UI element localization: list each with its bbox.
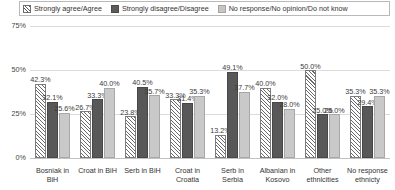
bar-slot: 28.0% [284, 26, 295, 158]
bar-slot: 40.0% [104, 26, 115, 158]
bar-value-label: 35.3% [189, 88, 209, 96]
category-label: No response ethnicty [345, 166, 390, 190]
bar[interactable]: 13.2% [215, 135, 226, 158]
bar-slot: 32.1% [47, 26, 58, 158]
bar[interactable]: 37.7% [239, 92, 250, 158]
bar-value-label: 25.0% [324, 107, 344, 115]
bar-slot: 32.0% [272, 26, 283, 158]
bar-group: 33.3%31.4%35.3% [165, 26, 210, 158]
bar-slot: 13.2% [215, 26, 226, 158]
bar-slot: 35.7% [149, 26, 160, 158]
legend-item-label: Strongly agree/Agree [34, 5, 102, 13]
category-label: Croat in Croatia [165, 166, 210, 190]
bar-group: 13.2%49.1%37.7% [210, 26, 255, 158]
bar-slot: 50.0% [305, 26, 316, 158]
y-axis-tick-label: 75% [12, 22, 26, 30]
bar-value-label: 35.3% [369, 88, 389, 96]
bar-slot: 25.6% [59, 26, 70, 158]
bar[interactable]: 35.7% [149, 95, 160, 158]
bar-value-label: 25.6% [54, 105, 74, 113]
legend-item-2[interactable]: No response/No opinion/Do not know [218, 5, 348, 13]
bar-value-label: 40.0% [99, 80, 119, 88]
bar-groups: 42.3%32.1%25.6%26.7%33.3%40.0%23.8%40.5%… [30, 26, 390, 158]
hatched-diagonal-swatch [23, 5, 31, 13]
gridline-0%: 0% [30, 158, 390, 159]
bar-slot: 25.0% [317, 26, 328, 158]
bar-slot: 35.3% [374, 26, 385, 158]
bar-group: 35.3%29.4%35.3% [345, 26, 390, 158]
category-label: Albanian in Kosovo [255, 166, 300, 190]
bar-slot: 25.0% [329, 26, 340, 158]
bar-group: 23.8%40.5%35.7% [120, 26, 165, 158]
y-axis-tick-label: 0% [16, 154, 26, 162]
bar[interactable]: 33.3% [170, 99, 181, 158]
grouped-bar-chart: Strongly agree/AgreeStrongly disagree/Di… [0, 0, 395, 190]
bar-value-label: 28.0% [279, 101, 299, 109]
bar-value-label: 35.7% [144, 88, 164, 96]
bar[interactable]: 25.0% [317, 114, 328, 158]
bar[interactable]: 35.3% [194, 96, 205, 158]
bar-group: 50.0%25.0%25.0% [300, 26, 345, 158]
category-label: Serb in BiH [120, 166, 165, 190]
category-axis-labels: Bosniak in BiHCroat in BiHSerb in BiHCro… [30, 166, 390, 190]
bar[interactable]: 40.5% [137, 87, 148, 158]
bar-slot: 40.0% [260, 26, 271, 158]
category-label: Bosniak in BiH [30, 166, 75, 190]
chart-legend: Strongly agree/AgreeStrongly disagree/Di… [19, 1, 390, 16]
bar-slot: 35.3% [350, 26, 361, 158]
category-label: Serb in Serbia [210, 166, 255, 190]
legend-item-label: No response/No opinion/Do not know [229, 5, 348, 13]
bar[interactable]: 25.0% [329, 114, 340, 158]
solid-dark-swatch [111, 5, 119, 13]
plot-area: 0%25%50%75% 42.3%32.1%25.6%26.7%33.3%40.… [30, 26, 390, 158]
bar[interactable]: 35.3% [374, 96, 385, 158]
legend-item-1[interactable]: Strongly disagree/Disagree [111, 5, 209, 13]
bar[interactable]: 26.7% [80, 111, 91, 158]
y-axis-tick-label: 25% [12, 110, 26, 118]
bar[interactable]: 40.0% [104, 88, 115, 158]
solid-light-swatch [218, 5, 226, 13]
bar[interactable]: 23.8% [125, 116, 136, 158]
legend-item-0[interactable]: Strongly agree/Agree [23, 5, 102, 13]
bar[interactable]: 29.4% [362, 106, 373, 158]
bar[interactable]: 25.6% [59, 113, 70, 158]
bar[interactable]: 28.0% [284, 109, 295, 158]
category-label: Croat in BiH [75, 166, 120, 190]
bar-value-label: 37.7% [234, 84, 254, 92]
bar-slot: 23.8% [125, 26, 136, 158]
bar[interactable]: 33.3% [92, 99, 103, 158]
y-axis-tick-label: 50% [12, 66, 26, 74]
bar-slot: 35.3% [194, 26, 205, 158]
bar-slot: 33.3% [170, 26, 181, 158]
bar[interactable]: 32.0% [272, 102, 283, 158]
legend-item-label: Strongly disagree/Disagree [122, 5, 209, 13]
bar-slot: 37.7% [239, 26, 250, 158]
bar-group: 40.0%32.0%28.0% [255, 26, 300, 158]
bar-group: 42.3%32.1%25.6% [30, 26, 75, 158]
bar-slot: 42.3% [35, 26, 46, 158]
category-label: Other ethnicities [300, 166, 345, 190]
bar-group: 26.7%33.3%40.0% [75, 26, 120, 158]
bar-slot: 33.3% [92, 26, 103, 158]
bar[interactable]: 31.4% [182, 103, 193, 158]
